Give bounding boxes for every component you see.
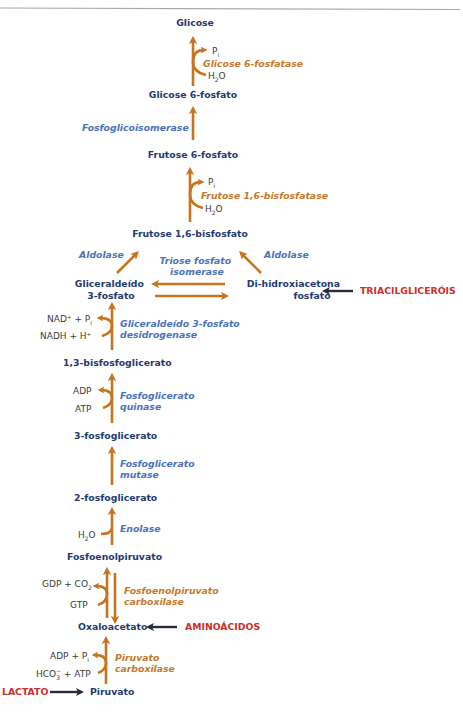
curved-arrow-icon	[100, 318, 112, 336]
aldolase-right-reaction: Aldolase	[242, 249, 309, 273]
curved-arrow-icon	[95, 655, 106, 673]
lactato-input: LACTATO	[2, 686, 80, 697]
metabolite-piruvato: Piruvato	[90, 686, 134, 697]
glicose-6-fosfatase-reaction: Pi Glicose 6-fosfatase H2O	[193, 40, 303, 86]
metabolite-3-fosfoglicerato: 3-fosfoglicerato	[74, 430, 157, 441]
aminoacidos-input: AMINOÁCIDOS	[150, 621, 260, 632]
enolase-reaction: H2O Enolase	[78, 511, 161, 545]
cofactor-atp: ATP	[75, 404, 92, 414]
fosfoglicerato-mutase-reaction: Fosfoglicerato mutase	[112, 450, 198, 485]
source-aminoacidos: AMINOÁCIDOS	[185, 621, 260, 632]
enzyme-fosfoglicerato-quinase: Fosfoglicerato quinase	[120, 390, 198, 412]
fosfoglicerato-quinase-reaction: ADP ATP Fosfoglicerato quinase	[73, 377, 198, 423]
fosfoenolpiruvato-carboxilase-reaction: GDP + CO2 GTP Fosfoenolpiruvato carboxil…	[42, 571, 222, 620]
enzyme-fosfoenolpiruvato-carboxilase: Fosfoenolpiruvato carboxilase	[124, 585, 222, 607]
enzyme-gliceraldeido-3-fosfato-desidrogenase: Gliceraldeído 3-fosfato desidrogenase	[120, 318, 243, 340]
metabolite-glicose-6-fosfato: Glicose 6-fosfato	[149, 89, 237, 100]
gluconeogenesis-diagram: Glicose Pi Glicose 6-fosfatase H2O Glico…	[0, 0, 463, 712]
metabolite-fosfoenolpiruvato: Fosfoenolpiruvato	[67, 551, 162, 562]
curved-arrow-icon	[101, 390, 112, 408]
cofactor-h2o: H2O	[78, 530, 96, 542]
enzyme-fosfoglicerato-mutase: Fosfoglicerato mutase	[120, 458, 198, 480]
top-rule	[0, 8, 460, 10]
metabolite-1-3-bisfosfoglicerato: 1,3-bisfosfoglicerato	[63, 357, 172, 368]
curved-arrow-icon	[101, 528, 112, 534]
cofactor-gtp: GTP	[70, 600, 88, 610]
cofactor-pi-out: Pi	[212, 46, 219, 58]
metabolite-oxaloacetato: Oxaloacetato	[78, 621, 147, 632]
frutose-1-6-bisfosfatase-reaction: Pi Frutose 1,6-bisfosfatase H2O	[190, 171, 328, 222]
cofactor-adp-pi: ADP + Pi	[50, 651, 89, 663]
metabolite-frutose-6-fosfato: Frutose 6-fosfato	[148, 149, 238, 160]
enzyme-piruvato-carboxilase: Piruvato carboxilase	[115, 652, 175, 674]
metabolite-frutose-1-6-bisfosfato: Frutose 1,6-bisfosfato	[132, 228, 248, 239]
aldolase-left-reaction: Aldolase	[78, 249, 136, 273]
metabolite-glicose: Glicose	[176, 17, 214, 28]
metabolite-di-hidroxiacetona-fosfato: Di-hidroxiacetona fosfato	[247, 278, 343, 301]
triose-fosfato-isomerase-reaction: Triose fosfato isomerase	[155, 255, 234, 296]
enzyme-glicose-6-fosfatase: Glicose 6-fosfatase	[203, 58, 303, 69]
cofactor-nadh-h: NADH + H⁺	[40, 331, 92, 341]
cofactor-pi-out: Pi	[208, 177, 215, 189]
fosfoglicoisomerase-reaction: Fosfoglicoisomerase	[82, 110, 193, 140]
cofactor-h2o-in: H2O	[208, 71, 226, 83]
enzyme-enolase: Enolase	[120, 523, 161, 534]
curved-arrow-icon	[96, 586, 107, 605]
triacilglicerois-input: TRIACILGLICERÓIS	[326, 285, 456, 296]
cofactor-h2o-in: H2O	[205, 204, 223, 216]
metabolite-gliceraldeido-3-fosfato: Gliceraldeído 3-fosfato	[75, 278, 147, 301]
enzyme-frutose-1-6-bisfosfatase: Frutose 1,6-bisfosfatase	[201, 190, 328, 201]
cofactor-gdp-co2: GDP + CO2	[42, 579, 92, 591]
source-lactato: LACTATO	[2, 686, 48, 697]
cofactor-adp: ADP	[73, 386, 92, 396]
source-triacilglicerois: TRIACILGLICERÓIS	[360, 285, 456, 296]
cofactor-nad-pi: NAD⁺ + Pi	[47, 314, 92, 326]
cofactor-hco3-atp: HCO3− + ATP	[36, 667, 91, 681]
enzyme-triose-fosfato-isomerase: Triose fosfato isomerase	[160, 255, 235, 277]
enzyme-aldolase-left: Aldolase	[78, 249, 124, 260]
metabolite-2-fosfoglicerato: 2-fosfoglicerato	[74, 492, 157, 503]
gliceraldeido-3-fosfato-desidrogenase-reaction: NAD⁺ + Pi NADH + H⁺ Gliceraldeído 3-fosf…	[40, 306, 243, 350]
enzyme-fosfoglicoisomerase: Fosfoglicoisomerase	[82, 122, 189, 133]
piruvato-carboxilase-reaction: ADP + Pi HCO3− + ATP Piruvato carboxilas…	[36, 640, 175, 684]
arrow-diagonal-icon	[242, 254, 261, 273]
enzyme-aldolase-right: Aldolase	[263, 249, 309, 260]
